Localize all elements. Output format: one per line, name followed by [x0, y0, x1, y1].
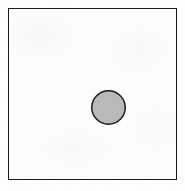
figure-interior	[9, 9, 176, 179]
figure-canvas	[0, 0, 185, 191]
rectangular-border	[8, 8, 177, 180]
